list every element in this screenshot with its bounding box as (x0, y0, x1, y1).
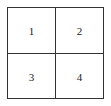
quadrant-grid: 1 2 3 4 (7, 7, 104, 99)
cell-3: 3 (8, 54, 55, 99)
cell-1: 1 (8, 8, 55, 53)
cell-4: 4 (56, 54, 103, 99)
cell-2: 2 (56, 8, 103, 53)
